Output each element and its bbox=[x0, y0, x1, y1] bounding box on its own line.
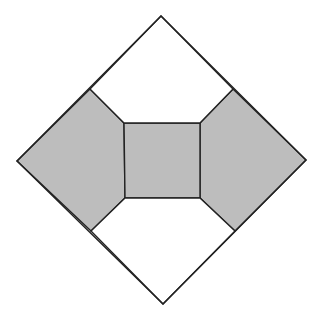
central-square-region bbox=[124, 123, 200, 198]
bowtie-diamond-diagram bbox=[0, 0, 320, 318]
